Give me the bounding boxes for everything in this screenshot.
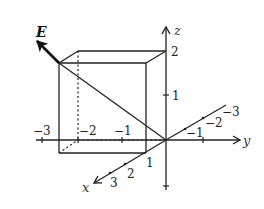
z-tick-1: 1 [172,89,180,103]
coordinate-diagram: E z y x 2 1 −3 −2 −1 1 2 3 −1 −2 −3 [0,0,264,209]
x-axis-label: x [82,180,90,195]
e-vector-arrow [37,41,59,63]
x-tick-2: 2 [127,167,135,181]
x-tick-neg2: −2 [205,116,223,130]
y-tick-neg3: −3 [33,124,51,138]
x-tick-neg3: −3 [222,105,240,119]
y-tick-neg2: −2 [79,124,97,138]
z-tick-2: 2 [171,45,179,59]
e-vector-label: E [35,24,47,40]
x-tick-1: 1 [146,156,154,170]
x-tick-3: 3 [110,176,118,190]
y-tick-neg1: −1 [114,124,132,138]
z-axis-label: z [173,23,181,38]
y-axis-label: y [242,133,251,148]
diagonal-line [59,63,166,140]
x-tick-neg1: −1 [186,126,204,140]
